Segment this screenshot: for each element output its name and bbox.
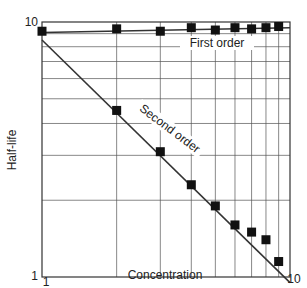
chart: 10 1 1 10 Concentration Half-life First … xyxy=(0,0,307,288)
data-point-marker xyxy=(112,106,121,115)
first-order-annotation: First order xyxy=(190,36,245,50)
y-tick-label-top: 10 xyxy=(25,15,39,29)
data-point-marker xyxy=(156,27,165,36)
data-point-marker xyxy=(187,23,196,32)
data-point-marker xyxy=(230,23,239,32)
second-order-annotation: Second order xyxy=(137,101,203,156)
x-axis-label: Concentration xyxy=(128,268,203,282)
data-point-marker xyxy=(230,220,239,229)
y-tick-label-bottom: 1 xyxy=(31,269,38,283)
data-point-marker xyxy=(274,22,283,31)
grid xyxy=(42,22,290,277)
data-point-marker xyxy=(261,235,270,244)
data-point-marker xyxy=(38,27,47,36)
x-tick-label-right: 10 xyxy=(287,272,301,286)
x-tick-label-left: 1 xyxy=(43,275,50,288)
fit-line xyxy=(42,40,290,283)
data-point-marker xyxy=(247,24,256,33)
data-point-marker xyxy=(261,23,270,32)
data-point-marker xyxy=(187,180,196,189)
data-point-marker xyxy=(274,257,283,266)
data-point-marker xyxy=(112,24,121,33)
data-point-marker xyxy=(211,26,220,35)
data-point-marker xyxy=(156,147,165,156)
data-point-marker xyxy=(211,201,220,210)
data-point-marker xyxy=(247,228,256,237)
y-axis-label: Half-life xyxy=(5,129,19,170)
plot-frame xyxy=(42,22,290,277)
